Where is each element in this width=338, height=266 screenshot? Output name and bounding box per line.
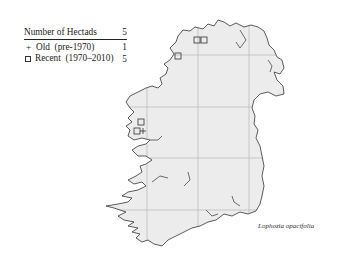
- species-name: Lophozia opacifolia: [258, 222, 314, 230]
